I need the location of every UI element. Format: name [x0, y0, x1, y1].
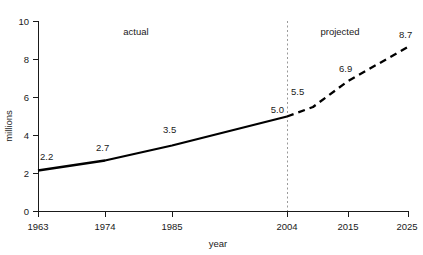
x-tick-label-2025: 2025 [396, 221, 417, 232]
y-tick-label-2: 2 [24, 168, 29, 179]
point-label-1985: 3.5 [163, 124, 176, 135]
point-label-1974: 2.7 [96, 142, 109, 153]
point-label-2015: 6.9 [339, 63, 352, 74]
region-label-projected: projected [320, 26, 359, 37]
point-label-2025: 8.7 [399, 29, 412, 40]
series-projected-line [287, 47, 408, 117]
y-tick-label-10: 10 [18, 16, 29, 27]
point-label-2004: 5.0 [271, 104, 284, 115]
x-tick-label-1985: 1985 [161, 221, 182, 232]
y-tick-label-6: 6 [24, 92, 29, 103]
x-tick-label-2015: 2015 [337, 221, 358, 232]
chart-canvas: 10 8 6 4 2 0 millions 1963 1974 1985 200… [0, 0, 423, 255]
y-tick-label-0: 0 [24, 206, 29, 217]
x-axis-title: year [209, 238, 227, 249]
x-tick-label-1963: 1963 [27, 221, 48, 232]
point-label-1963: 2.2 [40, 151, 53, 162]
region-label-actual: actual [123, 26, 148, 37]
x-axis: 1963 1974 1985 2004 2015 2025 year [27, 212, 417, 250]
y-tick-label-4: 4 [24, 130, 29, 141]
x-tick-label-1974: 1974 [94, 221, 115, 232]
y-tick-label-8: 8 [24, 54, 29, 65]
line-chart: 10 8 6 4 2 0 millions 1963 1974 1985 200… [0, 0, 423, 255]
x-tick-label-2004: 2004 [276, 221, 297, 232]
y-axis-title: millions [3, 110, 14, 142]
point-label-2009: 5.5 [291, 86, 304, 97]
y-axis: 10 8 6 4 2 0 millions [3, 16, 39, 217]
